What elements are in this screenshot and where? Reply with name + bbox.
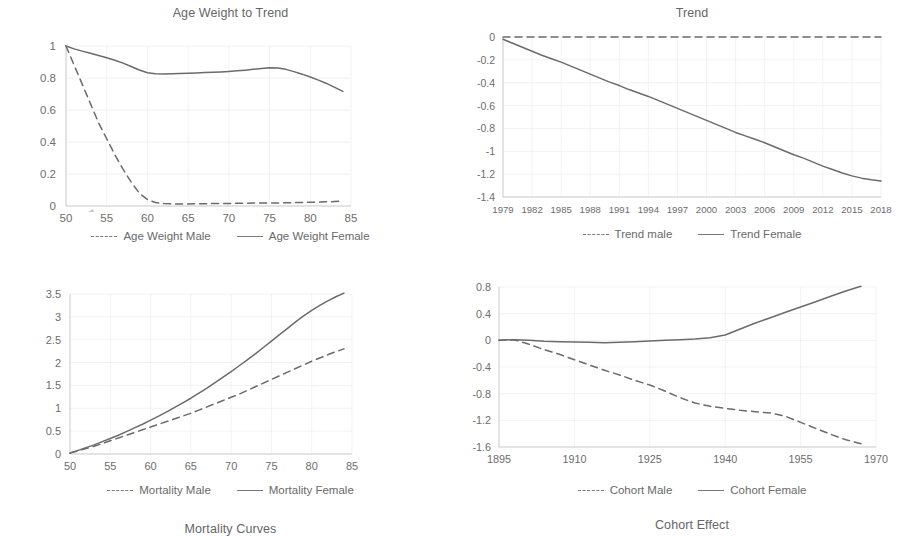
legend-item-female: Trend Female [698,228,801,240]
svg-text:80: 80 [306,460,318,472]
svg-text:1910: 1910 [562,453,586,465]
legend-label-male: Mortality Male [139,484,211,496]
svg-text:-0.8: -0.8 [472,388,491,400]
legend-dashed-line-icon [583,234,609,235]
svg-text:3.5: 3.5 [46,288,61,300]
legend-dashed-line-icon [107,490,133,491]
legend-cohort: Cohort Male Cohort Female [461,484,923,496]
legend-label-female: Cohort Female [730,484,806,496]
svg-text:-0.6: -0.6 [477,100,495,112]
svg-text:1997: 1997 [667,204,688,215]
svg-text:-1.4: -1.4 [477,191,495,203]
legend-item-male: Cohort Male [578,484,673,496]
svg-text:70: 70 [222,212,235,224]
svg-text:70: 70 [225,460,237,472]
chart-title-cohort: Cohort Effect [461,518,923,532]
svg-text:60: 60 [141,212,154,224]
svg-text:85: 85 [346,460,358,472]
svg-text:1982: 1982 [521,204,542,215]
svg-text:0.2: 0.2 [40,168,56,180]
svg-text:1925: 1925 [638,453,662,465]
svg-text:2012: 2012 [812,204,833,215]
svg-text:75: 75 [263,212,276,224]
svg-text:1: 1 [55,402,61,414]
chart-panel-trend: Trend -1.4-1.2-1-0.8-0.6-0.4-0.201979198… [461,0,923,260]
svg-text:1940: 1940 [713,453,737,465]
svg-text:0.8: 0.8 [40,72,56,84]
legend-label-male: Cohort Male [610,484,673,496]
svg-text:0.6: 0.6 [40,104,56,116]
svg-text:50: 50 [60,212,73,224]
chart-panel-mortality: Mortality Curves 00.511.522.533.55055606… [0,260,461,520]
legend-item-male: Age Weight Male [91,230,210,242]
legend-item-male: Mortality Male [107,484,211,496]
svg-text:-0.8: -0.8 [477,122,495,134]
svg-text:75: 75 [265,460,277,472]
svg-text:2018: 2018 [870,204,891,215]
svg-text:0: 0 [55,448,61,460]
svg-text:-1.2: -1.2 [477,168,495,180]
legend-trend: Trend male Trend Female [461,228,923,240]
legend-label-female: Trend Female [730,228,801,240]
svg-text:2000: 2000 [696,204,717,215]
svg-text:2.5: 2.5 [46,334,61,346]
legend-age-weight: Age Weight Male Age Weight Female [0,230,461,242]
legend-solid-line-icon [237,490,263,491]
svg-text:60: 60 [144,460,156,472]
svg-text:1: 1 [50,40,56,52]
chart-title-mortality: Mortality Curves [0,522,461,536]
svg-text:1991: 1991 [609,204,630,215]
legend-label-male: Age Weight Male [123,230,210,242]
svg-text:2003: 2003 [725,204,746,215]
legend-item-female: Mortality Female [237,484,354,496]
svg-text:1985: 1985 [550,204,571,215]
chart-svg-age-weight: 00.20.40.60.815055606570758085 [0,0,461,260]
svg-text:3: 3 [55,311,61,323]
legend-solid-line-icon [237,236,263,237]
svg-text:2006: 2006 [754,204,775,215]
svg-text:2: 2 [55,357,61,369]
svg-text:80: 80 [304,212,317,224]
legend-solid-line-icon [698,490,724,491]
svg-text:-1.2: -1.2 [472,414,491,426]
svg-text:0: 0 [489,31,495,43]
legend-dashed-line-icon [91,236,117,237]
svg-text:55: 55 [100,212,113,224]
svg-text:50: 50 [64,460,76,472]
svg-text:-0.4: -0.4 [472,361,491,373]
svg-text:-1.6: -1.6 [472,441,491,453]
svg-text:2009: 2009 [783,204,804,215]
svg-text:-0.2: -0.2 [477,54,495,66]
svg-text:0.4: 0.4 [40,136,57,148]
chart-svg-mortality: 00.511.522.533.55055606570758085 [0,260,461,520]
svg-text:0: 0 [485,334,491,346]
legend-item-female: Age Weight Female [237,230,370,242]
svg-text:1895: 1895 [487,453,511,465]
chart-panel-cohort: Cohort Effect -1.6-1.2-0.8-0.400.40.8189… [461,260,923,520]
legend-solid-line-icon [698,234,724,235]
legend-label-female: Mortality Female [269,484,354,496]
svg-text:0.8: 0.8 [476,281,491,293]
svg-text:-1: -1 [486,145,495,157]
svg-text:1955: 1955 [789,453,813,465]
legend-mortality: Mortality Male Mortality Female [0,484,461,496]
svg-text:1970: 1970 [864,453,888,465]
svg-text:-0.4: -0.4 [477,77,495,89]
svg-text:2015: 2015 [841,204,862,215]
svg-text:1979: 1979 [492,204,513,215]
chart-panel-age-weight: Age Weight to Trend 00.20.40.60.81505560… [0,0,461,260]
legend-label-male: Trend male [615,228,673,240]
svg-text:65: 65 [182,212,195,224]
chart-svg-trend: -1.4-1.2-1-0.8-0.6-0.4-0.201979198219851… [461,0,923,260]
svg-text:65: 65 [185,460,197,472]
svg-text:1.5: 1.5 [46,379,61,391]
legend-item-female: Cohort Female [698,484,806,496]
svg-text:0: 0 [50,200,56,212]
svg-text:1988: 1988 [580,204,601,215]
legend-item-male: Trend male [583,228,673,240]
svg-text:0.5: 0.5 [46,425,61,437]
legend-dashed-line-icon [578,490,604,491]
legend-label-female: Age Weight Female [269,230,370,242]
chart-svg-cohort: -1.6-1.2-0.8-0.400.40.818951910192519401… [461,260,923,520]
